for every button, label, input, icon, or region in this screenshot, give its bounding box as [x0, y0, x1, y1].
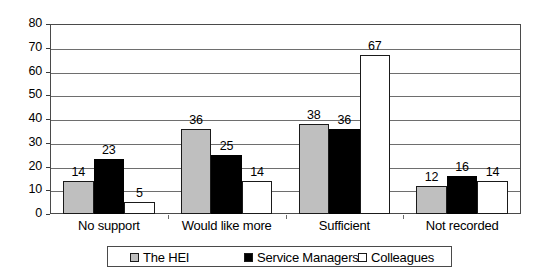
x-separator-tick-2 [286, 215, 287, 219]
legend: The HEIService ManagersColleagues [107, 246, 452, 267]
bar-value-label-0-0: 14 [57, 165, 100, 179]
y-tick-label-50: 50 [18, 87, 42, 101]
bar-value-label-2-2: 67 [354, 39, 397, 53]
legend-item-1[interactable]: Service Managers [244, 249, 359, 266]
bar-2-1 [329, 129, 360, 215]
y-tick-label-60: 60 [18, 64, 42, 78]
bar-0-2 [124, 202, 155, 214]
legend-label-0: The HEI [143, 250, 189, 265]
y-tick-label-70: 70 [18, 40, 42, 54]
bar-1-1 [211, 155, 242, 214]
y-tick-label-80: 80 [18, 16, 42, 30]
black-square-icon [244, 253, 253, 262]
bar-value-label-0-2: 5 [118, 186, 161, 200]
bar-3-2 [477, 181, 508, 214]
bar-1-2 [242, 181, 273, 214]
y-tick-label-40: 40 [18, 111, 42, 125]
legend-item-0[interactable]: The HEI [130, 249, 189, 266]
x-separator-tick-1 [168, 215, 169, 219]
bar-2-0 [299, 124, 330, 214]
legend-label-2: Colleagues [371, 250, 434, 265]
bar-0-0 [63, 181, 94, 214]
bar-value-label-1-1: 25 [205, 139, 248, 153]
x-category-label-3: Not recorded [382, 218, 542, 233]
legend-item-2[interactable]: Colleagues [358, 249, 434, 266]
y-tick-label-30: 30 [18, 135, 42, 149]
bar-value-label-2-1: 36 [323, 113, 366, 127]
bar-chart: 01020304050607080 1423536251438366712161… [0, 0, 550, 275]
white-square-icon [358, 253, 367, 262]
bar-value-label-1-0: 36 [175, 113, 218, 127]
gray-square-icon [130, 253, 139, 262]
bar-value-label-3-2: 14 [471, 165, 514, 179]
x-separator-tick-3 [403, 215, 404, 219]
bar-2-2 [360, 55, 391, 214]
y-tick-label-20: 20 [18, 159, 42, 173]
y-tick-mark-0 [46, 214, 50, 215]
bar-value-label-1-2: 14 [236, 165, 279, 179]
bar-value-label-0-1: 23 [88, 143, 131, 157]
y-tick-label-10: 10 [18, 182, 42, 196]
legend-label-1: Service Managers [257, 250, 359, 265]
bar-3-0 [416, 186, 447, 215]
